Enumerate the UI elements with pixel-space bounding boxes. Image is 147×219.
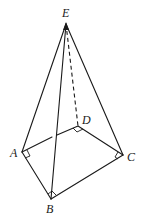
edge-EB (51, 24, 66, 199)
edge-AB (22, 152, 51, 199)
label-C: C (127, 150, 136, 164)
edge-EC (66, 24, 123, 155)
edge-BC (51, 155, 123, 199)
label-D: D (81, 113, 91, 127)
label-E: E (61, 6, 70, 20)
label-A: A (9, 146, 18, 160)
edge-ED-hidden (66, 24, 78, 126)
right-angle-A (25, 150, 30, 158)
edge-EA (22, 24, 66, 152)
pyramid-diagram: E A B C D (0, 0, 147, 219)
apex-marker (63, 22, 69, 30)
edge-AD-part2 (57, 126, 78, 135)
label-B: B (46, 202, 54, 216)
